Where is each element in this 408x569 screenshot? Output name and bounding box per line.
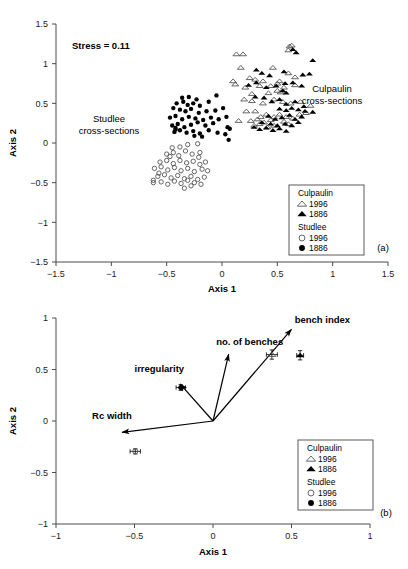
y-tick-label-1: 0.5 <box>35 365 48 375</box>
legend-item-1-0: 1996 <box>309 233 328 243</box>
filled-circle-marker <box>215 131 219 135</box>
filled-circle-marker <box>182 125 186 129</box>
filled-circle-marker <box>207 128 211 132</box>
open-circle-marker <box>172 179 176 183</box>
legend-group-header-1: Studlee <box>298 222 327 232</box>
y-tick-label-3: −0.5 <box>30 468 48 478</box>
open-circle-marker <box>170 146 174 150</box>
culpaulin-label-line2: cross-sections <box>302 95 363 106</box>
y-axis-title: Axis 2 <box>7 129 18 157</box>
open-triangle-marker <box>247 119 254 123</box>
open-triangle-marker <box>259 79 266 83</box>
open-circle-marker <box>179 169 183 173</box>
open-circle-marker <box>164 158 168 162</box>
vector-label-no-of-benches: no. of benches <box>216 336 283 347</box>
filled-circle-marker <box>191 101 195 105</box>
studlee-label-line1: Studlee <box>93 113 125 124</box>
open-circle-marker <box>182 186 186 190</box>
filled-triangle-marker <box>309 110 316 114</box>
vector-label-bench-index: bench index <box>295 314 351 325</box>
filled-circle-marker <box>193 116 197 120</box>
filled-circle-marker <box>197 111 201 115</box>
filled-triangle-marker <box>292 100 299 104</box>
x-tick-label-0: −1.5 <box>47 269 65 279</box>
series-culpaulin-1996 <box>266 350 277 359</box>
legend-item-1-1: 1886 <box>318 498 337 508</box>
filled-circle-marker <box>192 134 196 138</box>
filled-triangle-marker <box>261 96 268 100</box>
filled-circle-marker <box>180 96 184 100</box>
vector-arrow-rc-width <box>122 421 213 432</box>
open-circle-marker <box>162 173 166 177</box>
open-circle-marker <box>166 182 170 186</box>
legend: Culpaulin19961886Studlee19961886 <box>298 440 373 510</box>
open-circle-marker <box>195 142 199 146</box>
nmds-ordination-plot: −1.5−1−0.500.511.51.510.50−0.5−1−1.5Axis… <box>0 0 408 292</box>
open-circle-marker <box>158 160 162 164</box>
series-studlee-1886 <box>176 385 185 391</box>
open-circle-marker <box>202 175 206 179</box>
filled-circle-marker <box>186 103 190 107</box>
legend-item-0-1: 1886 <box>318 464 337 474</box>
open-circle-marker <box>177 154 181 158</box>
open-circle-marker <box>178 158 182 162</box>
filled-circle-marker <box>198 104 202 108</box>
open-circle-marker <box>189 174 193 178</box>
series-studlee-1996 <box>130 449 140 454</box>
open-circle-marker <box>176 173 180 177</box>
y-tick-label-2: 0 <box>43 416 48 426</box>
panel-label-a: (a) <box>377 242 389 253</box>
filled-triangle-marker <box>276 97 283 101</box>
open-circle-marker <box>186 142 190 146</box>
vector-biplot: −1−0.500.5110.50−0.5−1Axis 1Axis 2bench … <box>0 292 408 569</box>
open-circle-marker <box>159 180 163 184</box>
y-tick-label-0: 1.5 <box>35 19 48 29</box>
panel-b: −1−0.500.5110.50−0.5−1Axis 1Axis 2bench … <box>0 292 408 569</box>
open-circle-marker <box>183 149 187 153</box>
open-circle-marker <box>205 169 209 173</box>
filled-triangle-marker <box>256 127 263 131</box>
legend-item-0-0: 1996 <box>309 199 328 209</box>
x-tick-label-3: 0.5 <box>285 531 298 541</box>
open-triangle-marker <box>252 109 259 113</box>
legend: Culpaulin19961886Studlee19961886 <box>289 185 364 255</box>
filled-circle-marker <box>209 115 213 119</box>
filled-circle-marker <box>191 129 195 133</box>
x-tick-label-5: 1 <box>330 269 335 279</box>
open-triangle-marker <box>237 65 244 69</box>
open-circle-marker <box>186 166 190 170</box>
open-circle-marker <box>192 169 196 173</box>
filled-circle-marker <box>180 117 184 121</box>
filled-circle-marker <box>226 138 230 142</box>
y-tick-label-6: −1.5 <box>30 257 48 267</box>
vector-label-irregularity: irregularity <box>135 363 185 374</box>
open-triangle-marker <box>265 91 272 95</box>
filled-circle-marker <box>178 385 183 390</box>
x-tick-label-1: −1 <box>106 269 116 279</box>
filled-circle-marker <box>189 107 193 111</box>
filled-circle-marker <box>181 100 185 104</box>
open-triangle-marker <box>248 92 255 96</box>
open-circle-marker <box>166 168 170 172</box>
filled-circle-marker <box>171 106 175 110</box>
filled-circle-marker <box>203 123 207 127</box>
filled-circle-marker <box>173 126 177 130</box>
open-triangle-marker <box>281 119 288 123</box>
legend-group-header-1: Studlee <box>307 477 336 487</box>
open-triangle-marker <box>254 117 261 121</box>
series-culpaulin-1886 <box>296 351 304 360</box>
series-studlee-1996 <box>151 142 210 191</box>
open-triangle-marker <box>267 84 274 88</box>
open-triangle-marker <box>243 109 250 113</box>
y-tick-label-4: −0.5 <box>30 178 48 188</box>
filled-circle-marker <box>176 122 180 126</box>
filled-triangle-marker <box>288 106 295 110</box>
filled-triangle-marker <box>273 84 280 88</box>
open-triangle-marker <box>292 75 299 79</box>
y-tick-label-4: −1 <box>38 519 48 529</box>
open-triangle-marker <box>274 81 281 85</box>
legend-group-header-0: Culpaulin <box>298 188 333 198</box>
filled-circle-marker <box>178 128 182 132</box>
y-tick-label-1: 1 <box>43 59 48 69</box>
filled-circle-marker <box>207 100 211 104</box>
